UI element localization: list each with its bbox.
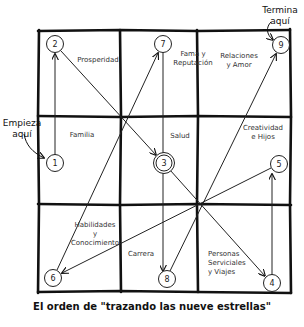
cell-label-familia: Familia [62, 131, 102, 140]
svg-text:5: 5 [276, 160, 281, 169]
svg-text:8: 8 [164, 275, 169, 284]
grid-vline-1 [120, 30, 121, 292]
cell-label-creatividad: Creatividad e Hijos [238, 124, 288, 142]
cell-label-salud: Salud [165, 132, 195, 141]
cell-label-fama: Fama y Reputación [170, 50, 216, 68]
svg-text:4: 4 [269, 279, 274, 288]
diagram-caption: El orden de "trazando las nueve estrella… [0, 301, 304, 312]
star-9: 9 [273, 37, 290, 54]
star-6: 6 [45, 270, 62, 287]
cell-relaciones-line2: y Amor [214, 61, 264, 70]
start-note: Empieza aquí [2, 118, 42, 140]
star-5: 5 [271, 156, 288, 173]
cell-habilidades-line1: Habilidades [68, 221, 122, 230]
svg-text:1: 1 [52, 159, 57, 168]
star-3: 3 [154, 153, 175, 174]
cell-creatividad-line1: Creatividad [238, 124, 288, 133]
cell-label-personas: Personas Serviciales y Viajes [208, 250, 254, 277]
cell-personas-line3: y Viajes [208, 268, 254, 277]
svg-text:2: 2 [52, 40, 57, 49]
cell-label-carrera: Carrera [122, 250, 160, 259]
star-2: 2 [47, 36, 64, 53]
cell-prosperidad-line1: Prosperidad [72, 56, 124, 65]
grid-hline-2 [38, 204, 291, 205]
grid-vline-2 [197, 30, 198, 292]
star-8: 8 [159, 271, 176, 288]
end-note-line1: Termina [258, 5, 302, 16]
cell-habilidades-line3: Conocimiento [68, 239, 122, 248]
cell-habilidades-line2: y [68, 230, 122, 239]
cell-label-relaciones: Relaciones y Amor [214, 52, 264, 70]
cell-relaciones-line1: Relaciones [214, 52, 264, 61]
end-note-line2: aquí [258, 16, 302, 27]
star-1: 1 [47, 155, 64, 172]
svg-text:7: 7 [160, 40, 165, 49]
start-note-line2: aquí [2, 129, 42, 140]
grid-outer-right [290, 29, 291, 293]
svg-text:9: 9 [278, 41, 283, 50]
cell-salud-line1: Salud [165, 132, 195, 141]
grid-outer-left [38, 30, 39, 293]
cell-personas-line2: Serviciales [208, 259, 254, 268]
grid-and-path-svg: 1 2 3 4 5 6 [0, 0, 304, 327]
path-8-to-9 [170, 54, 276, 271]
svg-text:3: 3 [161, 159, 166, 168]
cell-label-prosperidad: Prosperidad [72, 56, 124, 65]
cell-carrera-line1: Carrera [122, 250, 160, 259]
star-4: 4 [264, 275, 281, 292]
cell-personas-line1: Personas [208, 250, 254, 259]
cell-familia-line1: Familia [62, 131, 102, 140]
svg-text:6: 6 [50, 274, 55, 283]
grid-outer-top [38, 30, 290, 31]
star-7: 7 [155, 36, 172, 53]
cell-label-habilidades: Habilidades y Conocimiento [68, 221, 122, 248]
start-note-line1: Empieza [2, 118, 42, 129]
cell-fama-line1: Fama y [170, 50, 216, 59]
grid-outer-bottom [38, 291, 291, 293]
cell-creatividad-line2: e Hijos [238, 133, 288, 142]
nine-stars-diagram: 1 2 3 4 5 6 [0, 0, 304, 327]
end-note: Termina aquí [258, 5, 302, 27]
cell-fama-line2: Reputación [170, 59, 216, 68]
grid-hline-1 [38, 116, 291, 117]
